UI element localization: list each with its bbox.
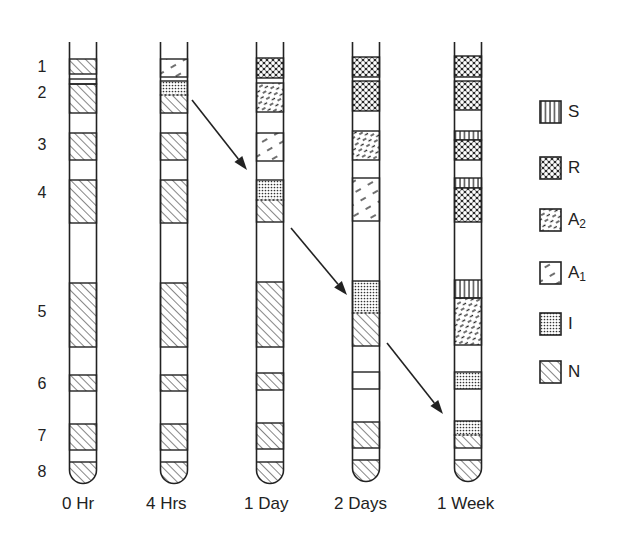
band-n bbox=[161, 283, 188, 347]
legend-item-a1: A1 bbox=[552, 262, 586, 284]
band-number-1: 1 bbox=[36, 58, 48, 76]
band-n bbox=[257, 282, 284, 347]
band-number-4: 4 bbox=[36, 184, 48, 202]
band-n bbox=[161, 95, 188, 113]
band-n bbox=[70, 84, 97, 113]
tube-0-hr bbox=[70, 42, 97, 484]
band-n bbox=[161, 133, 188, 160]
gel-tube-diagram bbox=[0, 0, 625, 538]
legend-label-a2: A2 bbox=[568, 210, 586, 231]
band-i bbox=[161, 81, 188, 95]
legend-swatches bbox=[540, 101, 561, 383]
tube-label-1day: 1 Day bbox=[244, 494, 288, 514]
band-n bbox=[70, 59, 97, 74]
band-a1 bbox=[257, 133, 284, 161]
band-r bbox=[455, 140, 482, 160]
band-n bbox=[257, 423, 284, 449]
band-n bbox=[353, 313, 380, 346]
band-r bbox=[455, 188, 482, 222]
band-i bbox=[257, 180, 284, 200]
band-n bbox=[161, 424, 188, 450]
legend-label-n: N bbox=[568, 362, 580, 382]
band-a2 bbox=[353, 131, 380, 160]
legend-label-a1: A1 bbox=[568, 263, 586, 284]
band-n bbox=[455, 435, 482, 448]
band-n bbox=[161, 180, 188, 223]
band-r bbox=[455, 56, 482, 77]
arrows-layer bbox=[192, 100, 443, 414]
band-a2 bbox=[257, 83, 284, 112]
tube-4-hrs bbox=[161, 42, 188, 484]
band-number-8: 8 bbox=[36, 463, 48, 481]
tube-label-2days: 2 Days bbox=[334, 494, 387, 514]
band-a2 bbox=[455, 298, 482, 345]
band-s bbox=[455, 280, 482, 298]
band-a1 bbox=[161, 59, 188, 77]
band-i bbox=[455, 372, 482, 389]
band-number-7: 7 bbox=[36, 427, 48, 445]
band-none bbox=[353, 372, 380, 389]
legend-item-a2: A2 bbox=[552, 209, 586, 231]
legend-label-s: S bbox=[568, 102, 579, 122]
band-none bbox=[70, 79, 97, 84]
band-r bbox=[455, 81, 482, 110]
migration-arrow bbox=[291, 228, 347, 295]
tube-2-days bbox=[353, 42, 380, 482]
legend-item-i: I bbox=[552, 313, 573, 335]
tube-1-week bbox=[455, 42, 482, 482]
band-s bbox=[455, 178, 482, 188]
band-s bbox=[455, 131, 482, 140]
tube-label-4hrs: 4 Hrs bbox=[146, 494, 187, 514]
band-r bbox=[353, 81, 380, 111]
band-n bbox=[70, 283, 97, 347]
band-r bbox=[353, 57, 380, 77]
band-i bbox=[353, 281, 380, 313]
band-number-2: 2 bbox=[36, 84, 48, 102]
band-n bbox=[257, 200, 284, 222]
tubes-layer bbox=[70, 42, 482, 484]
band-n bbox=[353, 422, 380, 448]
band-r bbox=[257, 58, 284, 78]
band-number-6: 6 bbox=[36, 375, 48, 393]
band-n bbox=[257, 373, 284, 390]
tube-1-day bbox=[257, 42, 284, 484]
legend-label-i: I bbox=[568, 314, 573, 334]
tube-label-1week: 1 Week bbox=[437, 494, 494, 514]
migration-arrow bbox=[192, 100, 247, 170]
legend-item-s: S bbox=[552, 101, 579, 123]
band-n bbox=[70, 375, 97, 391]
band-a1 bbox=[353, 178, 380, 221]
legend-item-r: R bbox=[552, 157, 580, 179]
legend-item-n: N bbox=[552, 361, 580, 383]
band-n bbox=[70, 424, 97, 450]
band-number-3: 3 bbox=[36, 136, 48, 154]
legend-label-r: R bbox=[568, 158, 580, 178]
band-number-5: 5 bbox=[36, 303, 48, 321]
band-n bbox=[70, 180, 97, 223]
band-n bbox=[161, 375, 188, 391]
band-i bbox=[455, 421, 482, 435]
tube-label-0hr: 0 Hr bbox=[62, 494, 94, 514]
migration-arrow bbox=[387, 343, 443, 414]
band-n bbox=[70, 133, 97, 160]
